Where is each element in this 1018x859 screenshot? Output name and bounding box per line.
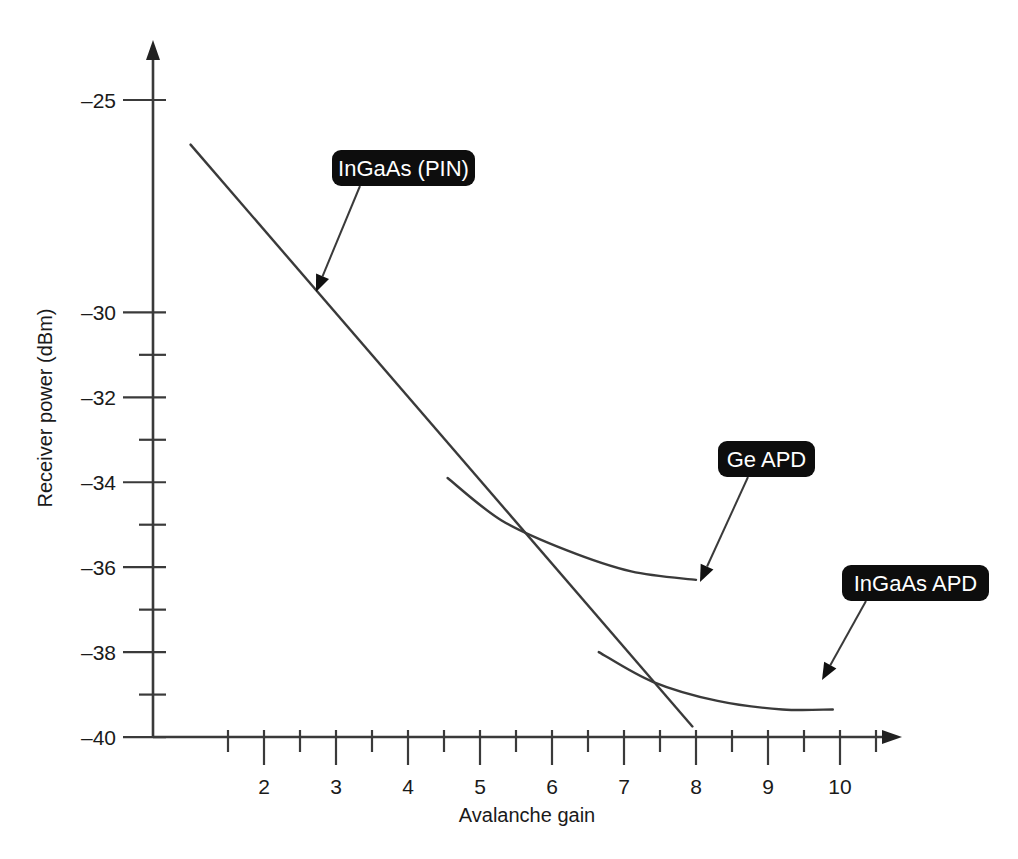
y-axis-tick-label: –34	[81, 471, 116, 494]
chart-series-line	[191, 145, 693, 727]
x-tick-group	[228, 730, 876, 765]
chart-annotation: InGaAs (PIN)	[316, 150, 475, 292]
chart-series-line	[448, 478, 696, 580]
y-axis-tick-label: –40	[81, 726, 116, 749]
x-axis-tick-label: 10	[828, 775, 851, 798]
x-axis-arrowhead	[882, 730, 902, 744]
annotation-callout-label: InGaAs (PIN)	[338, 156, 469, 181]
chart-series-line	[599, 652, 833, 710]
y-axis-tick-label: –32	[81, 386, 116, 409]
x-axis-tick-label: 4	[402, 775, 414, 798]
annotation-callout-label: Ge APD	[727, 447, 806, 472]
y-axis-arrowhead	[146, 40, 160, 60]
y-axis-label: Receiver power (dBm)	[34, 309, 56, 508]
annotation-leader-line	[830, 601, 866, 665]
chart-canvas: –25–30–32–34–36–38–40 2345678910 InGaAs …	[0, 0, 1018, 859]
y-axis-tick-label: –30	[81, 301, 116, 324]
annotation-leader-line	[707, 477, 748, 567]
annotation-arrowhead-icon	[316, 274, 329, 292]
chart-annotation: Ge APD	[700, 441, 815, 582]
x-ticklabel-group: 2345678910	[258, 775, 852, 798]
chart-annotation-group: InGaAs (PIN)Ge APDInGaAs APD	[316, 150, 989, 680]
annotation-callout-label: InGaAs APD	[854, 571, 978, 596]
chart-annotation: InGaAs APD	[822, 565, 989, 680]
x-axis-tick-label: 9	[762, 775, 774, 798]
x-axis-tick-label: 3	[330, 775, 342, 798]
x-axis-tick-label: 6	[546, 775, 558, 798]
y-axis-tick-label: –36	[81, 556, 116, 579]
chart-figure: –25–30–32–34–36–38–40 2345678910 InGaAs …	[0, 0, 1018, 859]
annotation-leader-line	[323, 186, 360, 276]
x-axis-tick-label: 5	[474, 775, 486, 798]
x-axis-tick-label: 8	[690, 775, 702, 798]
annotation-arrowhead-icon	[822, 662, 836, 680]
x-axis-tick-label: 7	[618, 775, 630, 798]
chart-axes	[146, 40, 902, 744]
y-axis-tick-label: –38	[81, 641, 116, 664]
y-ticklabel-group: –25–30–32–34–36–38–40	[81, 89, 116, 749]
x-axis-tick-label: 2	[258, 775, 270, 798]
annotation-arrowhead-icon	[700, 564, 713, 582]
y-axis-tick-label: –25	[81, 89, 116, 112]
y-tick-group	[123, 100, 166, 737]
x-axis-label: Avalanche gain	[459, 804, 595, 826]
chart-series-group	[191, 145, 833, 727]
